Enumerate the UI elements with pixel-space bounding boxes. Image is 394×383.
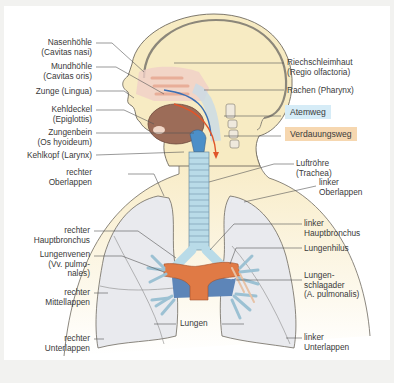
legend-label: Atemweg: [290, 107, 326, 117]
label-lungen: Lungen: [180, 319, 208, 329]
legend-verdauungsweg: Verdauungsweg: [285, 127, 357, 141]
label-line: Oberlappen: [6, 178, 92, 188]
label-lungenschlagader: Lungen- schlagader (A. pulmonalis): [304, 271, 359, 300]
label-line: Hauptbronchus: [304, 229, 360, 239]
label-line: Rachen (Pharynx): [287, 86, 354, 96]
label-mundhoehle: Mundhöhle (Cavitas oris): [6, 62, 92, 81]
label-rechter-hauptbronchus: rechter Hauptbronchus: [4, 226, 90, 245]
label-zunge: Zunge (Lingua): [6, 87, 92, 97]
label-line: Hauptbronchus: [4, 236, 90, 246]
label-rachen: Rachen (Pharynx): [287, 86, 354, 96]
label-luftroehre: Luftröhre (Trachea): [296, 159, 332, 178]
label-line: Zunge (Lingua): [6, 87, 92, 97]
label-line: Mittellappen: [4, 298, 90, 308]
label-lungenhilus: Lungenhilus: [304, 244, 349, 254]
label-kehldeckel: Kehldeckel (Epiglottis): [6, 105, 92, 124]
legend-label: Verdauungsweg: [290, 129, 352, 139]
label-line: nales): [4, 269, 90, 279]
diagram-page: Nasenhöhle (Cavitas nasi) Mundhöhle (Cav…: [4, 6, 390, 360]
label-riechschleimhaut: Riechschleimhaut (Regio olfactoria): [287, 58, 352, 77]
label-rechter-unterlappen: rechter Unterlappen: [4, 334, 90, 353]
label-rechter-oberlappen: rechter Oberlappen: [6, 168, 92, 187]
trachea: [189, 152, 209, 250]
label-kehlkopf: Kehlkopf (Larynx): [6, 151, 92, 161]
label-line: (Cavitas nasi): [6, 48, 92, 58]
label-line: Unterlappen: [4, 344, 90, 354]
label-linker-hauptbronchus: linker Hauptbronchus: [304, 219, 360, 238]
label-line: Lungenhilus: [304, 244, 349, 254]
label-linker-unterlappen: linker Unterlappen: [304, 333, 349, 352]
legend-atemweg: Atemweg: [285, 105, 331, 119]
label-line: (A. pulmonalis): [304, 290, 359, 300]
label-line: Oberlappen: [319, 188, 362, 198]
label-line: Kehlkopf (Larynx): [6, 151, 92, 161]
label-line: (Os hyoideum): [6, 138, 92, 148]
label-zungenbein: Zungenbein (Os hyoideum): [6, 128, 92, 147]
label-lungenvenen: Lungenvenen (Vv. pulmo- nales): [4, 250, 90, 279]
label-rechter-mittellappen: rechter Mittellappen: [4, 288, 90, 307]
label-line: Unterlappen: [304, 343, 349, 353]
label-line: (Cavitas oris): [6, 72, 92, 82]
label-line: (Epiglottis): [6, 115, 92, 125]
label-nasenhoehle: Nasenhöhle (Cavitas nasi): [6, 38, 92, 57]
label-linker-oberlappen: linker Oberlappen: [319, 178, 362, 197]
label-line: (Regio olfactoria): [287, 68, 352, 78]
